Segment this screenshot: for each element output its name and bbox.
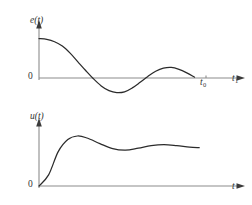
- top-tick-label-t0: t0: [200, 78, 206, 88]
- top-curve-e-of-t: [39, 39, 195, 93]
- bottom-curve-u-of-t: [39, 136, 199, 186]
- bottom-origin-label: 0: [28, 180, 33, 190]
- top-plot-group: [36, 20, 245, 93]
- top-y-axis-label: e(t): [30, 16, 43, 26]
- bottom-plot-group: [36, 118, 245, 189]
- plot-svg: [0, 0, 252, 205]
- bottom-y-axis-label: u(t): [30, 112, 44, 122]
- top-x-axis-label-t1: t1: [232, 74, 238, 84]
- figure-container: e(t) 0 t0 t1 u(t) 0 t: [0, 0, 252, 205]
- top-tick-label-t0-subscript: 0: [203, 81, 206, 88]
- top-origin-label: 0: [28, 72, 33, 82]
- top-x-axis-label-t1-subscript: 1: [235, 77, 238, 84]
- bottom-x-axis-arrowhead: [237, 183, 246, 189]
- bottom-x-axis-label: t: [232, 182, 235, 192]
